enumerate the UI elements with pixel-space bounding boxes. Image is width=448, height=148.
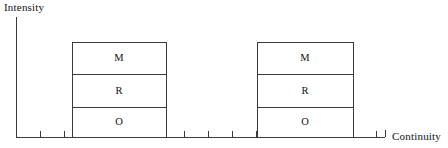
intensity-continuity-figure: Intensity Continuity MROMRO (0, 0, 448, 148)
figure-canvas (0, 0, 448, 148)
bar-segment-label-m: M (114, 53, 123, 64)
bar-segment-label-r: R (115, 86, 122, 97)
y-axis-label: Intensity (4, 1, 44, 13)
x-axis-label: Continuity (392, 130, 441, 142)
bar-segment-label-o: O (115, 117, 123, 128)
bar-segment-label-m: M (300, 53, 309, 64)
bar-segment-label-r: R (301, 86, 308, 97)
bar-segment-label-o: O (301, 117, 309, 128)
